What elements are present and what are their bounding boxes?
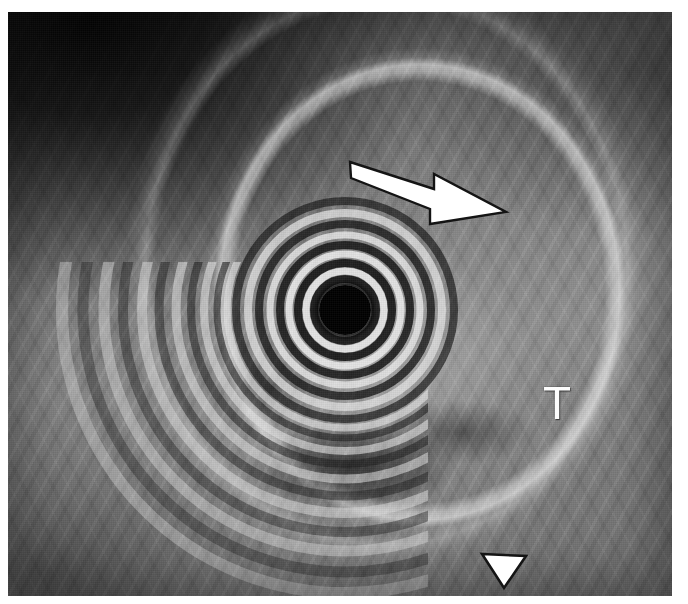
tumor-label: T <box>535 378 579 432</box>
arrow-right-icon <box>338 152 518 228</box>
ultrasound-image: T <box>8 12 672 596</box>
central-lumen <box>319 285 371 335</box>
screenshot-root: T <box>0 0 688 604</box>
triangle-down-icon <box>476 548 532 594</box>
